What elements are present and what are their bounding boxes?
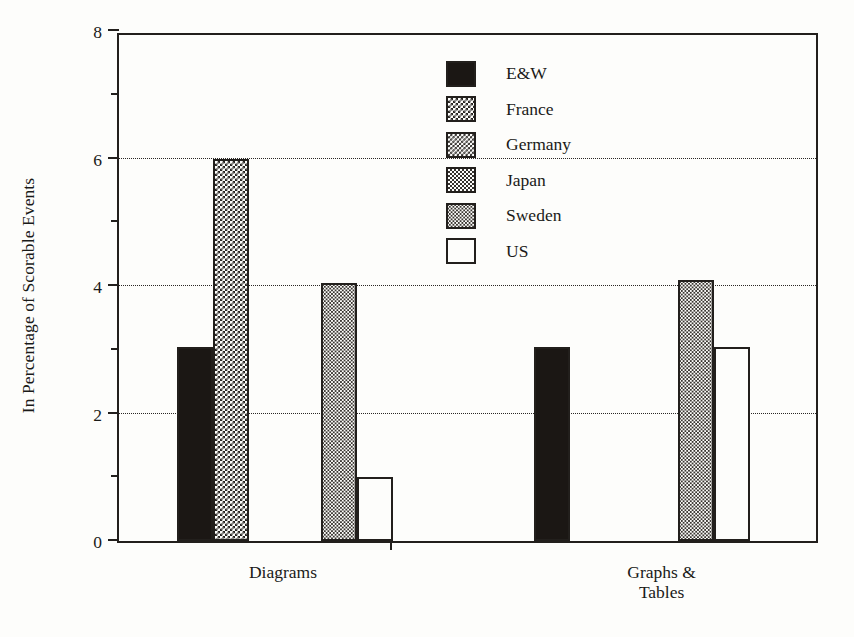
bar-e-w-group-1 (177, 347, 213, 541)
legend-label: Japan (506, 170, 546, 191)
legend-item-us[interactable]: US (446, 234, 676, 270)
y-tick-label-8: 8 (62, 22, 102, 43)
legend-label: Germany (506, 134, 571, 155)
y-tick-label-2: 2 (62, 405, 102, 426)
x-category-label-1: Diagrams (183, 563, 383, 583)
y-tick-6 (108, 157, 119, 159)
y-tick-minor-7 (111, 93, 119, 95)
x-category-label-2: Graphs &Tables (562, 563, 762, 602)
legend-label: US (506, 241, 528, 262)
y-tick-0 (108, 539, 119, 541)
legend-item-sweden[interactable]: Sweden (446, 198, 676, 234)
x-category-label-line2: Tables (562, 583, 762, 603)
legend-item-germany[interactable]: Germany (446, 127, 676, 163)
legend-swatch-icon-solid (446, 61, 476, 87)
legend-swatch-icon-medium (446, 167, 476, 193)
y-axis-title: In Percentage of Scorable Events (18, 36, 39, 556)
legend-label: France (506, 99, 554, 120)
legend-swatch-icon-dark (446, 96, 476, 122)
legend-swatch-icon-white (446, 238, 476, 264)
bar-chart: In Percentage of Scorable Events 02468 D… (0, 0, 854, 637)
legend-swatch-icon-mediumdark (446, 132, 476, 158)
legend-swatch-icon-light (446, 203, 476, 229)
y-tick-4 (108, 284, 119, 286)
x-category-label-line1: Graphs & (562, 563, 762, 583)
y-tick-minor-3 (111, 348, 119, 350)
legend-item-e-w[interactable]: E&W (446, 56, 676, 92)
y-tick-2 (108, 412, 119, 414)
legend-label: Sweden (506, 205, 561, 226)
bar-us-group-1 (357, 477, 393, 541)
x-category-label-line1: Diagrams (183, 563, 383, 583)
bar-us-group-2 (714, 347, 750, 541)
y-tick-minor-1 (111, 475, 119, 477)
legend-item-japan[interactable]: Japan (446, 163, 676, 199)
bar-france-group-1 (213, 159, 249, 542)
legend: E&WFranceGermanyJapanSwedenUS (446, 56, 676, 269)
y-tick-8 (108, 29, 119, 31)
y-tick-label-6: 6 (62, 150, 102, 171)
legend-label: E&W (506, 63, 547, 84)
y-tick-label-4: 4 (62, 277, 102, 298)
y-tick-label-0: 0 (62, 532, 102, 553)
x-axis-group-tick (390, 541, 392, 550)
bar-e-w-group-2 (534, 347, 570, 541)
bar-sweden-group-2 (678, 280, 714, 541)
legend-item-france[interactable]: France (446, 92, 676, 128)
y-tick-minor-5 (111, 220, 119, 222)
bar-sweden-group-1 (321, 283, 357, 541)
